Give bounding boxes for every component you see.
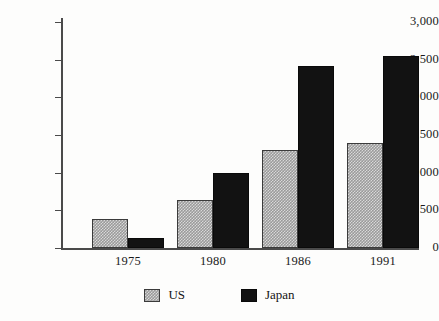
y-axis-tick — [55, 173, 62, 174]
x-axis-line — [61, 248, 419, 250]
bar-group — [177, 22, 249, 248]
checkerboard-gray-swatch — [144, 289, 160, 302]
bar-japan-1975 — [128, 238, 164, 248]
solid-black-swatch — [241, 289, 257, 302]
y-axis-tick — [55, 97, 62, 98]
bar-japan-1991 — [383, 56, 419, 248]
bar-us-1991 — [347, 143, 383, 248]
bar-group — [347, 22, 419, 248]
x-axis-tick-label-1991: 1991 — [353, 254, 413, 268]
bar-us-1986 — [262, 150, 298, 248]
y-axis-tick — [55, 210, 62, 211]
x-axis-tick-label-1975: 1975 — [98, 254, 158, 268]
legend-item-japan[interactable]: Japan — [241, 288, 295, 302]
bar-us-1980 — [177, 200, 213, 248]
bar-group — [92, 22, 164, 248]
x-axis-tick-label-1986: 1986 — [268, 254, 328, 268]
chart-legend: USJapan — [0, 288, 439, 302]
y-axis-tick — [55, 60, 62, 61]
legend-label: US — [168, 288, 185, 302]
bar-us-1975 — [92, 219, 128, 248]
y-axis-tick — [55, 135, 62, 136]
bar-chart: 05001,0001,5002,0002,5003,000 1975198019… — [0, 0, 439, 321]
x-axis-tick-label-1980: 1980 — [183, 254, 243, 268]
plot-area — [62, 22, 419, 248]
y-axis-tick — [55, 248, 62, 249]
bar-japan-1980 — [213, 173, 249, 248]
bar-japan-1986 — [298, 66, 334, 248]
bar-group — [262, 22, 334, 248]
legend-label: Japan — [265, 288, 295, 302]
y-axis-tick — [55, 22, 62, 23]
legend-item-us[interactable]: US — [144, 288, 185, 302]
